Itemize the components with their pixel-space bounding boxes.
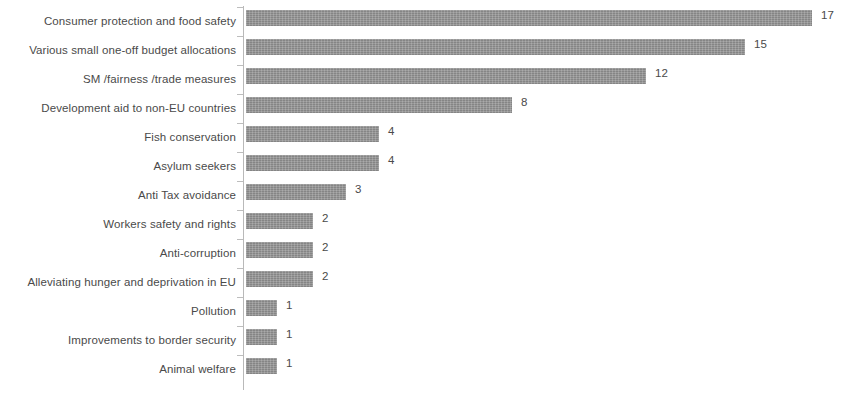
bar-wrapper: [246, 97, 512, 113]
axis-tick: [237, 268, 243, 269]
bar-wrapper: [246, 300, 277, 316]
bar-value-label: 1: [286, 297, 292, 313]
bar-wrapper: [246, 184, 346, 200]
bar-wrapper: [246, 358, 277, 374]
axis-tick: [237, 65, 243, 66]
bar-value-label: 2: [322, 268, 328, 284]
category-label: Development aid to non-EU countries: [41, 94, 236, 123]
bar-row: Workers safety and rights2: [0, 210, 841, 239]
bar-row: Alleviating hunger and deprivation in EU…: [0, 268, 841, 297]
bar-row: Anti Tax avoidance3: [0, 181, 841, 210]
bar-wrapper: [246, 126, 379, 142]
axis-tick: [237, 7, 243, 8]
axis-tick: [237, 355, 243, 356]
bar: [246, 271, 313, 287]
category-label: Animal welfare: [159, 355, 236, 384]
bar-value-label: 3: [355, 181, 361, 197]
bar-row: Various small one-off budget allocations…: [0, 36, 841, 65]
category-label: Anti Tax avoidance: [138, 181, 236, 210]
bar: [246, 329, 277, 345]
bar-value-label: 1: [286, 326, 292, 342]
bar: [246, 155, 379, 171]
bar-wrapper: [246, 271, 313, 287]
bar-row: Development aid to non-EU countries8: [0, 94, 841, 123]
bar-value-label: 8: [521, 94, 527, 110]
bar-row: Pollution1: [0, 297, 841, 326]
bar: [246, 68, 646, 84]
bar-wrapper: [246, 10, 812, 26]
bar-value-label: 15: [754, 36, 767, 52]
bar-wrapper: [246, 39, 745, 55]
bar-wrapper: [246, 155, 379, 171]
category-label: Alleviating hunger and deprivation in EU: [27, 268, 236, 297]
bar-wrapper: [246, 213, 313, 229]
bar-rows-container: Consumer protection and food safety17Var…: [0, 7, 841, 384]
axis-tick: [237, 94, 243, 95]
bar: [246, 358, 277, 374]
bar-value-label: 2: [322, 239, 328, 255]
axis-tick: [237, 239, 243, 240]
bar-value-label: 12: [655, 65, 668, 81]
bar: [246, 213, 313, 229]
axis-tick: [237, 123, 243, 124]
bar: [246, 126, 379, 142]
bar-row: Consumer protection and food safety17: [0, 7, 841, 36]
bar: [246, 242, 313, 258]
bar-value-label: 17: [821, 7, 834, 23]
bar: [246, 39, 745, 55]
bar: [246, 184, 346, 200]
category-label: Fish conservation: [144, 123, 236, 152]
bar-row: Fish conservation4: [0, 123, 841, 152]
bar-row: Animal welfare1: [0, 355, 841, 384]
plot-area: Consumer protection and food safety17Var…: [0, 0, 841, 396]
axis-tick: [237, 326, 243, 327]
category-label: Consumer protection and food safety: [44, 7, 236, 36]
bar-chart: Consumer protection and food safety17Var…: [0, 0, 841, 396]
bar-value-label: 2: [322, 210, 328, 226]
bar-wrapper: [246, 68, 646, 84]
bar-row: SM /fairness /trade measures12: [0, 65, 841, 94]
bar-value-label: 4: [388, 152, 394, 168]
bar: [246, 97, 512, 113]
bar-value-label: 4: [388, 123, 394, 139]
category-label: Anti-corruption: [160, 239, 236, 268]
axis-tick: [237, 297, 243, 298]
axis-tick: [237, 210, 243, 211]
axis-tick: [237, 36, 243, 37]
category-label: Asylum seekers: [153, 152, 236, 181]
category-label: Various small one-off budget allocations: [29, 36, 236, 65]
category-label: Workers safety and rights: [103, 210, 236, 239]
bar-wrapper: [246, 242, 313, 258]
bar-value-label: 1: [286, 355, 292, 371]
bar: [246, 300, 277, 316]
bar-row: Anti-corruption2: [0, 239, 841, 268]
category-label: Improvements to border security: [68, 326, 236, 355]
category-label: SM /fairness /trade measures: [83, 65, 236, 94]
bar: [246, 10, 812, 26]
category-label: Pollution: [191, 297, 236, 326]
bar-row: Improvements to border security1: [0, 326, 841, 355]
bar-row: Asylum seekers4: [0, 152, 841, 181]
bar-wrapper: [246, 329, 277, 345]
axis-tick: [237, 152, 243, 153]
axis-tick: [237, 181, 243, 182]
